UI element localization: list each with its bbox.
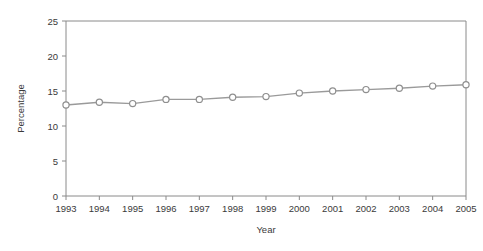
x-tick-label: 2000 bbox=[289, 203, 310, 214]
data-point-marker bbox=[230, 94, 236, 100]
x-tick-label: 1998 bbox=[222, 203, 243, 214]
y-axis-title: Percentage bbox=[15, 84, 26, 133]
data-point-marker bbox=[130, 101, 136, 107]
y-tick-label: 0 bbox=[53, 191, 58, 202]
y-tick-label: 10 bbox=[47, 121, 58, 132]
y-tick-label: 25 bbox=[47, 16, 58, 27]
data-point-marker bbox=[396, 85, 402, 91]
x-tick-label: 2002 bbox=[355, 203, 376, 214]
data-point-marker bbox=[463, 82, 469, 88]
y-tick-label: 15 bbox=[47, 86, 58, 97]
x-tick-label: 2005 bbox=[455, 203, 476, 214]
x-tick-label: 2003 bbox=[389, 203, 410, 214]
x-tick-label: 1997 bbox=[189, 203, 210, 214]
x-tick-label: 1999 bbox=[255, 203, 276, 214]
data-point-marker bbox=[263, 94, 269, 100]
x-axis-title: Year bbox=[256, 224, 275, 235]
data-point-marker bbox=[430, 83, 436, 89]
y-tick-label: 20 bbox=[47, 51, 58, 62]
data-point-marker bbox=[96, 99, 102, 105]
data-point-marker bbox=[163, 96, 169, 102]
x-tick-label: 1996 bbox=[155, 203, 176, 214]
chart-canvas: 0510152025 19931994199519961997199819992… bbox=[0, 0, 483, 251]
y-tick-label: 5 bbox=[53, 156, 58, 167]
x-tick-label: 1994 bbox=[89, 203, 110, 214]
x-tick-label: 1995 bbox=[122, 203, 143, 214]
data-point-marker bbox=[63, 102, 69, 108]
data-point-marker bbox=[196, 96, 202, 102]
data-point-marker bbox=[363, 87, 369, 93]
x-tick-label: 2004 bbox=[422, 203, 443, 214]
x-tick-label: 1993 bbox=[55, 203, 76, 214]
data-point-marker bbox=[296, 90, 302, 96]
data-point-marker bbox=[330, 88, 336, 94]
x-tick-label: 2001 bbox=[322, 203, 343, 214]
line-chart: 0510152025 19931994199519961997199819992… bbox=[0, 0, 483, 251]
